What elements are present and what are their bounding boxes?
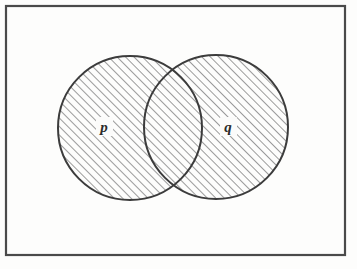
set-q-label-group: q [220, 117, 237, 136]
venn-diagram-canvas: p q [0, 0, 357, 269]
set-p-label: p [98, 119, 108, 135]
set-q-label: q [224, 119, 232, 135]
set-p-label-group: p [96, 117, 113, 136]
shaded-union-region [58, 55, 288, 200]
venn-diagram-figure: p q [0, 0, 357, 269]
